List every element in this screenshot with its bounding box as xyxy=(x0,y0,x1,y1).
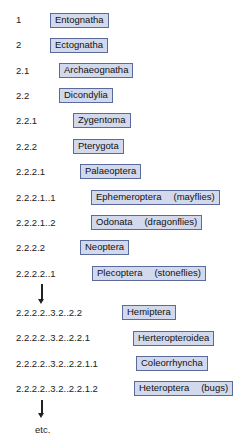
taxon-box-ephemeroptera: Ephemeroptera(mayflies) xyxy=(91,190,220,205)
taxon-name: Entognatha xyxy=(55,14,104,25)
taxon-box-ectognatha: Ectognatha xyxy=(50,38,108,53)
taxon-box-dicondylia: Dicondylia xyxy=(59,88,113,103)
common-name: (bugs) xyxy=(201,382,228,393)
taxon-name: Plecoptera xyxy=(97,267,142,278)
taxon-box-coleorrhyncha: Coleorrhyncha xyxy=(136,356,208,371)
row-code: 2.1 xyxy=(16,65,29,77)
taxon-name: Hemiptera xyxy=(127,306,171,317)
taxon-box-neoptera: Neoptera xyxy=(80,240,129,255)
taxon-box-odonata: Odonata(dragonflies) xyxy=(91,215,202,230)
row-code: 2.2.2.2..3.2..2.2.1 xyxy=(16,332,90,344)
taxon-box-zygentoma: Zygentoma xyxy=(73,113,131,128)
taxon-name: Palaeoptera xyxy=(85,165,136,176)
taxon-name: Archaeognatha xyxy=(64,64,128,75)
row-code: 2.2.2.2..3.2..2.2 xyxy=(16,307,82,319)
row-code: 2.2.2.2..3.2..2.2.1.1 xyxy=(16,358,98,370)
taxon-name: Herteropteroidea xyxy=(138,332,209,343)
row-code: 2.2.2.1..1 xyxy=(16,192,56,204)
taxon-name: Zygentoma xyxy=(78,114,126,125)
taxon-name: Ephemeroptera xyxy=(96,191,161,202)
common-name: (dragonflies) xyxy=(144,216,197,227)
row-code: 2 xyxy=(16,39,21,51)
taxon-box-heteroptera: Heteroptera(bugs) xyxy=(134,381,233,396)
taxon-name: Coleorrhyncha xyxy=(141,357,203,368)
taxon-name: Dicondylia xyxy=(64,89,108,100)
taxon-box-entognatha: Entognatha xyxy=(50,13,109,28)
row-code: 2.2 xyxy=(16,90,29,102)
common-name: (stoneflies) xyxy=(154,267,200,278)
etc-label: etc. xyxy=(35,424,50,435)
taxon-name: Ectognatha xyxy=(55,39,103,50)
taxon-box-palaeoptera: Palaeoptera xyxy=(80,164,141,179)
taxon-name: Heteroptera xyxy=(139,382,189,393)
row-code: 1 xyxy=(16,14,21,26)
taxon-box-pterygota: Pterygota xyxy=(73,139,124,154)
taxon-name: Odonata xyxy=(96,216,132,227)
row-code: 2.2.2.2..1 xyxy=(16,268,56,280)
row-code: 2.2.1 xyxy=(16,115,37,127)
row-code: 2.2.2 xyxy=(16,141,37,153)
taxon-box-herteropteroidea: Herteropteroidea xyxy=(133,331,214,346)
taxon-name: Neoptera xyxy=(85,241,124,252)
taxon-box-plecoptera: Plecoptera(stoneflies) xyxy=(92,266,206,281)
taxon-box-archaeognatha: Archaeognatha xyxy=(59,63,133,78)
row-code: 2.2.2.2 xyxy=(16,242,45,254)
common-name: (mayflies) xyxy=(173,191,214,202)
row-code: 2.2.2.1..2 xyxy=(16,217,56,229)
row-code: 2.2.2.1 xyxy=(16,166,45,178)
continuation-arrow-icon xyxy=(41,400,43,414)
continuation-arrow-icon xyxy=(41,284,43,300)
row-code: 2.2.2.2..3.2..2.2.1.2 xyxy=(16,383,98,395)
taxon-box-hemiptera: Hemiptera xyxy=(122,305,176,320)
taxon-name: Pterygota xyxy=(78,140,119,151)
